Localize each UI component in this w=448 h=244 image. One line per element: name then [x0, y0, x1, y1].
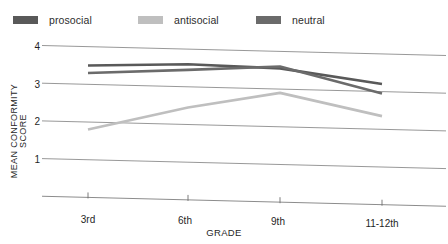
gridline [42, 159, 446, 169]
plot-canvas [0, 0, 448, 244]
plot-area: 4 3 2 1 3rd 6th 9th 11-12th MEAN CONFORM… [0, 0, 448, 244]
data-series-lines [88, 64, 382, 129]
series-line-antisocial [88, 93, 382, 130]
x-axis-title: GRADE [0, 228, 448, 238]
conformity-score-line-chart: prosocial antisocial neutral 4 3 2 1 3rd… [0, 0, 448, 244]
x-tick-label: 9th [271, 217, 285, 227]
gridline [42, 46, 446, 56]
series-line-neutral [88, 66, 382, 93]
x-axis-line [42, 196, 446, 206]
y-axis-title: MEAN CONFORMITY SCORE [10, 71, 28, 191]
x-tick-label: 3rd [81, 215, 95, 225]
x-tick-label: 6th [178, 216, 192, 226]
y-tick-label: 4 [24, 42, 40, 52]
gridline [42, 83, 446, 93]
